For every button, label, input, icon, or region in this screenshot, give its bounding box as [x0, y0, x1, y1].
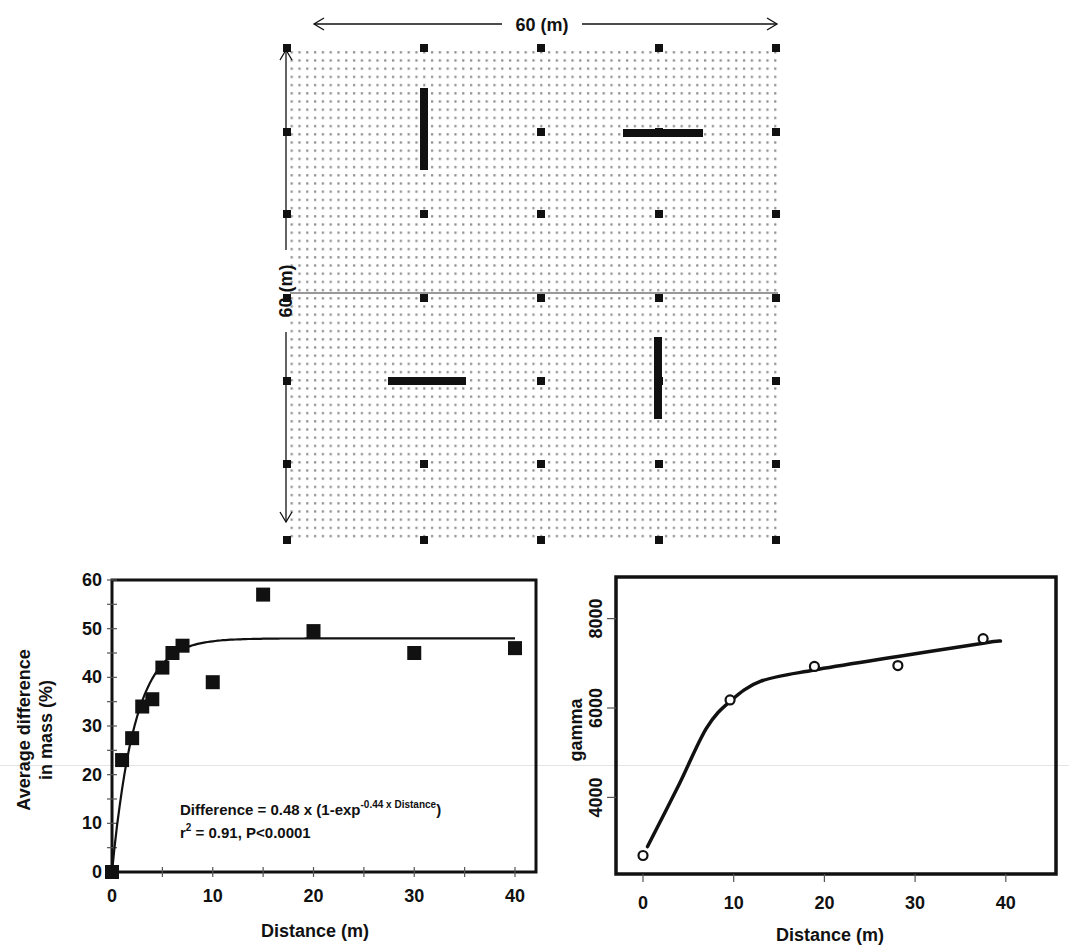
- y-tick-label: 60: [82, 570, 102, 590]
- right-chart-axes: 400060008000010203040: [586, 577, 1056, 913]
- y-tick-label: 8000: [586, 599, 606, 639]
- corner-marker: [420, 210, 428, 218]
- corner-marker: [655, 294, 663, 302]
- treatment-bar: [623, 129, 703, 137]
- x-tick-label: 0: [638, 893, 648, 913]
- x-tick-label: 0: [107, 886, 117, 906]
- treatment-bar: [420, 88, 428, 170]
- data-point: [407, 646, 421, 660]
- data-point: [256, 588, 270, 602]
- corner-marker: [655, 44, 663, 52]
- x-tick-label: 10: [203, 886, 223, 906]
- data-point: [206, 675, 220, 689]
- y-tick-label: 0: [92, 862, 102, 882]
- treatment-bar: [654, 337, 662, 419]
- left-chart-fit-curve: [112, 638, 515, 872]
- corner-marker: [772, 210, 780, 218]
- treatment-bar: [388, 377, 466, 385]
- x-tick-label: 20: [814, 893, 834, 913]
- y-tick-label: 10: [82, 813, 102, 833]
- corner-marker: [537, 536, 545, 544]
- corner-marker: [537, 128, 545, 136]
- corner-marker: [537, 294, 545, 302]
- data-point: [726, 695, 735, 704]
- height-label: 60 (m): [276, 264, 296, 317]
- data-point: [176, 639, 190, 653]
- data-point: [145, 692, 159, 706]
- sampling-dot-grid: [290, 46, 778, 542]
- variogram-chart: 400060008000010203040 gamma Distance (m): [540, 560, 1069, 949]
- x-tick-label: 20: [303, 886, 323, 906]
- corner-marker: [772, 536, 780, 544]
- corner-marker: [420, 460, 428, 468]
- corner-marker: [772, 377, 780, 385]
- fit-equation: Difference = 0.48 x (1-exp-0.44 x Distan…: [180, 799, 441, 818]
- corner-marker: [772, 460, 780, 468]
- corner-marker: [537, 210, 545, 218]
- corner-marker: [772, 128, 780, 136]
- fit-statistics: r2 = 0.91, P<0.0001: [180, 822, 311, 841]
- data-point: [115, 753, 129, 767]
- y-tick-label: 30: [82, 716, 102, 736]
- x-tick-label: 30: [905, 893, 925, 913]
- data-point: [105, 865, 119, 879]
- right-chart-xlabel: Distance (m): [776, 925, 884, 945]
- left-chart-axes: 0102030405060010203040: [82, 570, 536, 906]
- corner-marker: [655, 210, 663, 218]
- left-chart-xlabel: Distance (m): [261, 921, 369, 941]
- corner-marker: [772, 294, 780, 302]
- corner-marker: [655, 460, 663, 468]
- corner-marker: [283, 536, 291, 544]
- data-point: [810, 662, 819, 671]
- data-point: [508, 641, 522, 655]
- corner-marker: [420, 44, 428, 52]
- data-point: [639, 851, 648, 860]
- corner-marker: [283, 210, 291, 218]
- x-tick-label: 40: [996, 893, 1016, 913]
- x-tick-label: 30: [404, 886, 424, 906]
- plot-layout-diagram: 60 (m) 60 (m): [0, 0, 1069, 560]
- left-chart-data-points: [105, 588, 522, 879]
- corner-marker: [537, 377, 545, 385]
- corner-marker: [772, 44, 780, 52]
- data-point: [307, 624, 321, 638]
- right-chart-ylabel: gamma: [566, 698, 586, 762]
- svg-text:Average difference: Average difference: [14, 649, 34, 810]
- corner-marker: [537, 44, 545, 52]
- data-point: [979, 634, 988, 643]
- width-label: 60 (m): [515, 15, 568, 35]
- data-point: [125, 731, 139, 745]
- mass-difference-chart: 0102030405060010203040 Average differenc…: [0, 560, 540, 949]
- data-point: [155, 661, 169, 675]
- corner-marker: [283, 128, 291, 136]
- y-tick-label: 20: [82, 765, 102, 785]
- corner-marker: [283, 377, 291, 385]
- y-tick-label: 40: [82, 667, 102, 687]
- x-tick-label: 40: [505, 886, 525, 906]
- y-tick-label: 6000: [586, 688, 606, 728]
- corner-marker: [420, 294, 428, 302]
- x-tick-label: 10: [724, 893, 744, 913]
- corner-marker: [655, 536, 663, 544]
- corner-marker: [283, 460, 291, 468]
- data-point: [893, 661, 902, 670]
- corner-marker: [420, 536, 428, 544]
- corner-marker: [537, 460, 545, 468]
- right-chart-model-curve: [648, 641, 1001, 847]
- right-chart-data-points: [639, 634, 988, 860]
- left-chart-ylabel: Average difference in mass (%): [14, 649, 56, 810]
- y-tick-label: 4000: [586, 777, 606, 817]
- svg-text:in mass (%): in mass (%): [36, 680, 56, 780]
- y-tick-label: 50: [82, 619, 102, 639]
